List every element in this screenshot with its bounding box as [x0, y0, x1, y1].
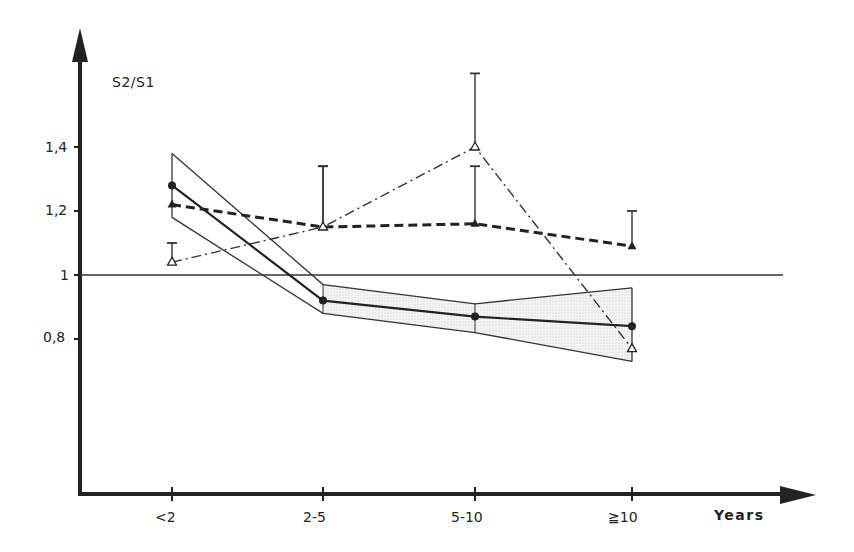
circle-marker-icon [319, 297, 327, 305]
y-tick-label: 1,2 [45, 202, 67, 218]
y-axis-title: S2/S1 [112, 74, 155, 90]
chart: S2/S1 Years 1,4 1,2 1 0,8 <2 2-5 5-10 ≧1… [0, 0, 854, 552]
y-tick-label: 1 [60, 267, 69, 283]
x-axis-title: Years [713, 507, 765, 523]
axes [72, 28, 816, 504]
confidence-band [172, 153, 632, 361]
filled-triangle-marker-icon [628, 241, 637, 249]
y-tick-label: 0,8 [43, 329, 65, 345]
circle-marker-icon [168, 181, 176, 189]
x-tick-labels: <2 2-5 5-10 ≧10 [155, 509, 638, 525]
bold-dashed-filled-triangle-line [172, 205, 632, 247]
x-tick-label: 5-10 [451, 509, 483, 525]
y-axis-arrow-icon [72, 28, 88, 62]
band-upper [172, 153, 632, 303]
x-tick-label: <2 [155, 509, 176, 525]
x-tick-label: ≧10 [608, 509, 638, 525]
x-axis-arrow-icon [780, 486, 816, 504]
open-triangle-marker-icon [471, 142, 480, 150]
x-tick-label: 2-5 [303, 509, 326, 525]
circle-marker-icon [471, 313, 479, 321]
y-tick-labels: 1,4 1,2 1 0,8 [43, 139, 69, 345]
y-tick-label: 1,4 [45, 139, 67, 155]
circle-marker-icon [628, 322, 636, 330]
